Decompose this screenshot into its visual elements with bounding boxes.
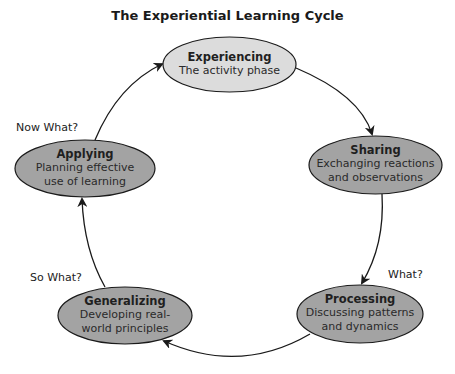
node-sharing: Sharing Exchanging reactions and observa…: [309, 143, 442, 185]
arrow-processing-to-generalizing: [164, 334, 310, 356]
node-experiencing: Experiencing The activity phase: [163, 50, 296, 78]
node-applying: Applying Planning effective use of learn…: [15, 147, 155, 189]
node-processing-desc: Discussing patterns and dynamics: [305, 306, 415, 334]
arrow-generalizing-to-applying: [82, 199, 105, 287]
question-what: What?: [388, 268, 423, 281]
node-generalizing-name: Generalizing: [58, 294, 192, 308]
node-experiencing-name: Experiencing: [163, 50, 296, 64]
arrow-experiencing-to-sharing: [296, 68, 372, 134]
arrow-applying-to-experiencing: [95, 64, 162, 140]
node-sharing-desc: Exchanging reactions and observations: [312, 157, 440, 185]
node-processing: Processing Discussing patterns and dynam…: [297, 292, 423, 334]
node-processing-name: Processing: [297, 292, 423, 306]
node-applying-desc: Planning effective use of learning: [31, 161, 139, 189]
node-applying-name: Applying: [15, 147, 155, 161]
question-now-what: Now What?: [16, 121, 78, 134]
node-generalizing: Generalizing Developing real-world princ…: [58, 294, 192, 336]
node-sharing-name: Sharing: [309, 143, 442, 157]
node-experiencing-desc: The activity phase: [163, 64, 296, 78]
node-generalizing-desc: Developing real-world principles: [69, 308, 181, 336]
question-so-what: So What?: [30, 271, 82, 284]
arrow-sharing-to-processing: [362, 194, 382, 283]
